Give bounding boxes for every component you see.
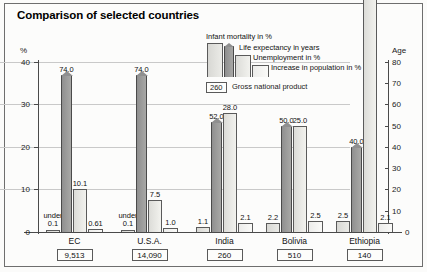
bar-value-label: 2.1 [232,213,260,222]
y-tick-label: 20 [14,143,30,152]
y2-tick [385,62,389,63]
legend-swatch-unemployment [235,55,251,77]
gnp-value-india: 260 [207,249,243,261]
y2-tick [385,168,389,169]
category-label-india: India [193,236,257,246]
gridline [0,104,350,105]
legend-swatch-infant-mortality [207,43,223,77]
bar-value-label: 7.5 [141,190,169,199]
bar-u-s-a-increase-in-population-in [163,228,178,232]
bar-ec-life-expectancy-in-years [61,75,72,232]
bar-value-label: 74.0 [53,65,81,74]
category-label-u-s-a: U.S.A. [118,236,182,246]
gnp-value-bolivia: 510 [277,249,313,261]
y-tick [34,104,38,105]
bar-india-increase-in-population-in [238,223,253,232]
y2-tick [385,189,389,190]
category-label-ethiopia: Ethiopia [333,236,397,246]
y2-tick-label: 80 [392,58,410,67]
bar-u-s-a-infant-mortality-in [121,230,135,232]
legend-label-gross-national-product: Gross national product [232,82,307,91]
y-tick [34,147,38,148]
legend-swatch-life-expectancy [224,46,234,77]
bar-value-label: 2.5 [302,211,330,220]
bar-bolivia-life-expectancy-in-years [281,126,292,232]
bar-u-s-a-life-expectancy-in-years [136,75,147,232]
bar-bolivia-infant-mortality-in [266,223,280,232]
y2-tick [385,83,389,84]
y-tick-label: 10 [14,185,30,194]
bar-value-label: 74.0 [128,65,156,74]
y-tick-label: 40 [14,58,30,67]
y-tick-label: 0 [14,228,30,237]
y-axis-line [38,60,39,234]
bar-india-life-expectancy-in-years [211,122,222,233]
y2-tick-label: 40 [392,143,410,152]
legend-label-population-increase: Increase in population in % [271,63,361,72]
y2-tick [385,104,389,105]
bar-value-label: 10.1 [66,179,94,188]
bar-ethiopia-increase-in-population-in [378,223,393,232]
category-label-ec: EC [43,236,107,246]
category-label-bolivia: Bolivia [263,236,327,246]
chart-figure: Comparison of selected countries % Age 4… [0,0,427,272]
y2-tick-label: 30 [392,164,410,173]
bar-value-label: 1.0 [157,218,185,227]
y2-tick-label: 0 [405,228,423,237]
y-tick [34,189,38,190]
legend-label-life-expectancy: Life expectancy in years [239,43,319,52]
y2-axis-unit-label: Age [392,46,406,55]
bar-ethiopia-life-expectancy-in-years [351,147,362,232]
gnp-value-ec: 9,513 [57,249,93,261]
legend-swatch-population-increase [252,65,269,77]
y2-tick-label: 20 [392,185,410,194]
y2-tick-label: 50 [392,122,410,131]
y2-tick-label: 60 [392,100,410,109]
bar-ethiopia-unemployment-in [363,0,377,232]
y-tick-label: 30 [14,100,30,109]
bar-ec-increase-in-population-in [88,229,103,232]
bar-bolivia-increase-in-population-in [308,221,323,232]
y-axis-unit-label: % [20,46,27,55]
gnp-value-ethiopia: 140 [347,249,383,261]
x-axis-line [24,232,402,233]
y2-tick [385,211,389,212]
y-tick [34,62,38,63]
bar-value-label: 25.0 [286,116,314,125]
chart-title: Comparison of selected countries [17,9,199,21]
bar-ec-infant-mortality-in [46,230,60,232]
legend-label-unemployment: Unemployment in % [253,53,320,62]
bar-ethiopia-infant-mortality-in [336,221,350,232]
legend-label-infant-mortality: Infant mortality in % [206,32,272,41]
y2-tick [385,126,389,127]
bar-value-label: 2.1 [372,213,400,222]
gnp-value-u-s-a: 14,090 [132,249,168,261]
bar-u-s-a-unemployment-in [148,200,162,232]
y2-tick [398,232,402,233]
bar-india-infant-mortality-in [196,227,210,232]
bar-value-label: 28.0 [216,103,244,112]
y2-tick [385,147,389,148]
legend-swatch-gross-national-product: 260 [206,82,227,93]
bar-value-label: 0.61 [82,219,110,228]
y2-tick-label: 70 [392,79,410,88]
